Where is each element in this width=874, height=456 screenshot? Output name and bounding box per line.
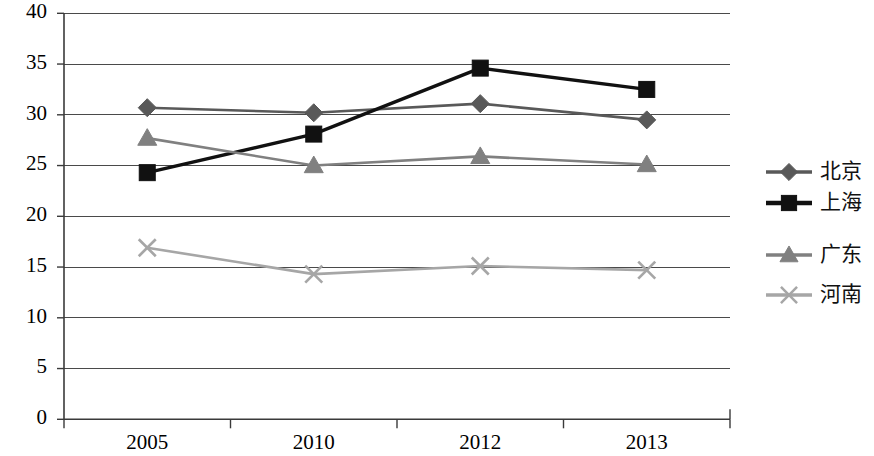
x-axis-tick-label: 2010: [293, 430, 335, 454]
y-axis-tick-label: 15: [26, 253, 47, 277]
data-point-square-marker: [639, 81, 655, 97]
y-axis-tick-label: 40: [26, 0, 47, 23]
data-point-diamond-marker: [780, 163, 797, 180]
y-axis-tick-label: 10: [26, 304, 47, 328]
data-point-triangle-marker: [138, 129, 157, 146]
data-point-diamond-marker: [471, 95, 489, 113]
legend-item[interactable]: 河南: [766, 282, 862, 306]
legend-item[interactable]: 北京: [766, 159, 862, 183]
legend-item[interactable]: 上海: [766, 190, 862, 214]
legend-label: 广东: [820, 242, 862, 266]
x-axis-tick-labels: 2005201020122013: [126, 430, 668, 454]
series-line: [147, 248, 647, 274]
legend-label: 上海: [820, 190, 862, 214]
data-point-square-marker: [781, 195, 796, 210]
axes-group: [57, 13, 730, 428]
data-series: [139, 60, 655, 181]
data-point-diamond-marker: [138, 99, 156, 117]
series-line: [147, 68, 647, 173]
data-point-square-marker: [472, 60, 488, 76]
y-axis-tick-label: 5: [37, 354, 48, 378]
legend-item[interactable]: 广东: [766, 242, 862, 266]
y-axis-tick-label: 20: [26, 202, 47, 226]
chart-canvas: 4035302520151050 2005201020122013 北京上海广东…: [0, 0, 874, 456]
data-series-group: [138, 60, 657, 283]
legend-label: 北京: [820, 159, 862, 183]
series-line: [147, 104, 647, 120]
y-axis-tick-label: 30: [26, 101, 47, 125]
data-point-triangle-marker: [471, 147, 490, 164]
data-point-square-marker: [306, 126, 322, 142]
data-point-square-marker: [139, 165, 155, 181]
data-series: [139, 239, 656, 282]
gridlines-group: [64, 13, 730, 419]
y-axis-tick-label: 0: [37, 405, 48, 429]
legend-label: 河南: [820, 282, 862, 306]
chart-legend: 北京上海广东河南: [766, 159, 862, 306]
y-axis-tick-label: 25: [26, 151, 47, 175]
x-axis-tick-label: 2005: [126, 430, 168, 454]
x-axis-tick-label: 2012: [459, 430, 501, 454]
x-axis-tick-label: 2013: [626, 430, 668, 454]
data-point-diamond-marker: [305, 104, 323, 122]
line-chart: 4035302520151050 2005201020122013 北京上海广东…: [0, 0, 874, 456]
series-line: [147, 138, 647, 165]
data-point-diamond-marker: [638, 111, 656, 129]
y-axis-tick-labels: 4035302520151050: [26, 0, 47, 429]
y-axis-tick-label: 35: [26, 50, 47, 74]
